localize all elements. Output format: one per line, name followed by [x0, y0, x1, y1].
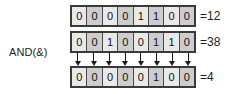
bit-cell: 0 — [180, 68, 194, 86]
bit-cell: 0 — [103, 68, 118, 86]
row-value-operand-2: =38 — [200, 36, 220, 49]
down-arrow-icon — [70, 53, 86, 66]
bit-cell: 1 — [149, 68, 164, 86]
bit-cell: 0 — [87, 33, 102, 51]
bit-cell: 0 — [118, 33, 133, 51]
bit-cell: 0 — [164, 68, 179, 86]
bit-cell: 1 — [164, 33, 179, 51]
down-arrow-icon — [102, 53, 118, 66]
bit-cell: 0 — [103, 7, 118, 25]
operator-label: AND(&) — [9, 46, 67, 58]
bit-cell: 0 — [164, 7, 179, 25]
bit-cell: 1 — [103, 33, 118, 51]
bit-cell: 0 — [180, 33, 194, 51]
down-arrow-icon — [86, 53, 102, 66]
bit-cell: 0 — [72, 7, 87, 25]
down-arrow-icon — [133, 53, 149, 66]
down-arrow-icon — [117, 53, 133, 66]
bit-cell: 1 — [149, 33, 164, 51]
bit-cell: 0 — [134, 33, 149, 51]
bitwise-and-diagram: AND(&) 0 0 0 0 1 1 0 0 =12 0 0 1 0 0 1 1… — [0, 0, 238, 94]
bit-cell: 0 — [118, 7, 133, 25]
bit-cell: 0 — [118, 68, 133, 86]
bit-cell: 0 — [87, 7, 102, 25]
bit-cell: 0 — [87, 68, 102, 86]
bit-cell: 0 — [72, 68, 87, 86]
down-arrow-icon — [165, 53, 181, 66]
bit-row-result: 0 0 0 0 0 1 0 0 — [70, 66, 196, 88]
bit-cell: 0 — [134, 68, 149, 86]
row-value-operand-1: =12 — [200, 10, 220, 23]
bit-row-operand-2: 0 0 1 0 0 1 1 0 — [70, 31, 196, 53]
bit-cell: 0 — [72, 33, 87, 51]
bit-cell: 1 — [134, 7, 149, 25]
bit-cell: 1 — [149, 7, 164, 25]
down-arrow-icon — [149, 53, 165, 66]
row-value-result: =4 — [200, 71, 214, 84]
bit-row-operand-1: 0 0 0 0 1 1 0 0 — [70, 5, 196, 27]
bit-cell: 0 — [180, 7, 194, 25]
arrow-band — [70, 53, 196, 66]
down-arrow-icon — [180, 53, 196, 66]
